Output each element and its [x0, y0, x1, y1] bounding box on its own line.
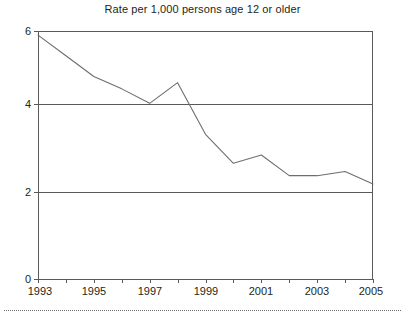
plot-area	[38, 31, 373, 279]
x-tick-mark-2003	[317, 279, 318, 283]
x-tick-mark-2002	[289, 279, 290, 283]
x-tick-mark-2001	[261, 279, 262, 283]
y-tick-label-2: 2	[1, 187, 31, 198]
x-tick-label-1993: 1993	[20, 285, 60, 297]
x-tick-label-1995: 1995	[74, 285, 114, 297]
plot-top-border	[38, 31, 373, 32]
x-tick-mark-1998	[178, 279, 179, 283]
gridline-y-4	[38, 104, 373, 105]
chart-figure: Rate per 1,000 persons age 12 or older 6…	[0, 0, 405, 321]
y-tick-label-4: 4	[1, 99, 31, 110]
plot-right-border	[372, 31, 373, 280]
x-tick-label-1997: 1997	[130, 285, 170, 297]
x-tick-mark-1994	[66, 279, 67, 283]
x-tick-mark-2005	[373, 279, 374, 283]
x-tick-label-2005: 2005	[351, 285, 391, 297]
x-tick-label-2001: 2001	[241, 285, 281, 297]
y-tick-mark-2	[34, 192, 38, 193]
x-tick-label-2003: 2003	[297, 285, 337, 297]
x-tick-label-1999: 1999	[186, 285, 226, 297]
x-tick-mark-1993	[38, 279, 39, 283]
chart-title: Rate per 1,000 persons age 12 or older	[0, 3, 405, 16]
y-tick-mark-6	[34, 31, 38, 32]
x-tick-mark-1996	[122, 279, 123, 283]
x-tick-mark-1999	[206, 279, 207, 283]
x-tick-mark-1995	[94, 279, 95, 283]
y-axis-line	[38, 31, 39, 280]
x-tick-mark-2000	[233, 279, 234, 283]
y-tick-label-6: 6	[1, 26, 31, 37]
footer-divider	[4, 310, 401, 311]
gridline-y-2	[38, 192, 373, 193]
y-tick-mark-4	[34, 104, 38, 105]
x-tick-mark-2004	[345, 279, 346, 283]
x-tick-mark-1997	[150, 279, 151, 283]
y-tick-label-0: 0	[1, 274, 31, 285]
